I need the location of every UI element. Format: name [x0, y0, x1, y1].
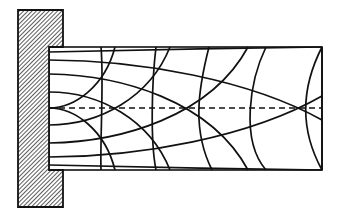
stress-trajectory-diagram: Stress trajectories in a cantilever beam [0, 0, 338, 224]
